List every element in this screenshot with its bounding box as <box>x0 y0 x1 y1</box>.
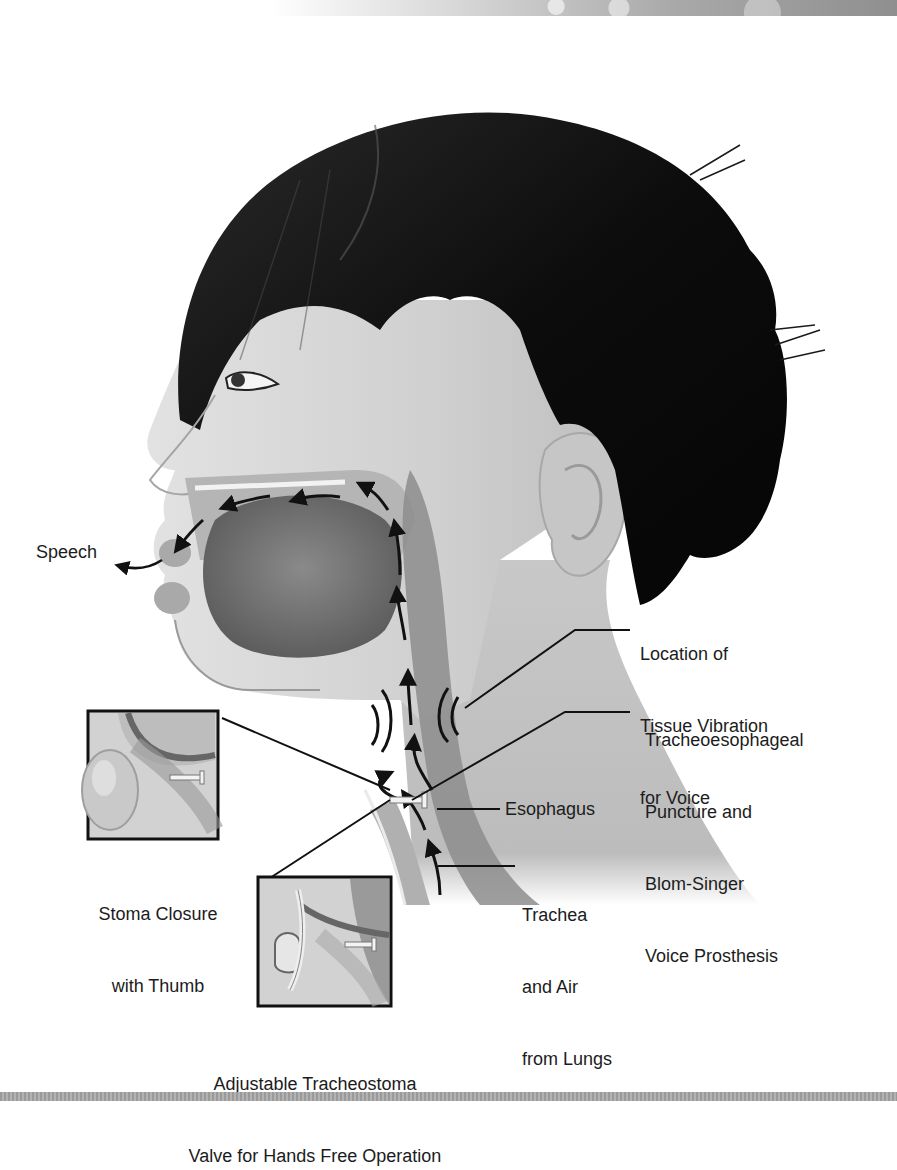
tracheostoma-valve-inset <box>258 877 391 1006</box>
label-line: Blom-Singer <box>645 872 803 896</box>
label-trachea: Trachea and Air from Lungs <box>522 855 612 1095</box>
label-line: Trachea <box>522 903 612 927</box>
speech-arrow <box>120 560 162 568</box>
bottom-rule-divider <box>0 1092 897 1101</box>
label-line: with Thumb <box>88 974 228 998</box>
label-line: Valve for Hands Free Operation <box>160 1144 470 1168</box>
label-line: Tracheoesophageal <box>645 728 803 752</box>
label-line: Stoma Closure <box>88 902 228 926</box>
label-esophagus: Esophagus <box>505 797 595 821</box>
label-line: Location of <box>640 642 768 666</box>
vibration-mark-left <box>372 705 378 745</box>
stoma-closure-inset <box>82 711 218 839</box>
leader-valve <box>270 800 390 878</box>
lower-lip <box>154 582 190 614</box>
label-speech: Speech <box>36 540 97 564</box>
tongue <box>203 496 402 658</box>
label-stoma-closure: Stoma Closure with Thumb <box>88 854 228 1022</box>
label-line: from Lungs <box>522 1047 612 1071</box>
label-line: and Air <box>522 975 612 999</box>
label-line: Voice Prosthesis <box>645 944 803 968</box>
label-puncture-prosthesis: Tracheoesophageal Puncture and Blom-Sing… <box>645 680 803 992</box>
leader-stoma-closure <box>222 718 390 790</box>
upper-lip <box>159 539 191 567</box>
voice-prosthesis <box>390 797 424 803</box>
label-line: Puncture and <box>645 800 803 824</box>
